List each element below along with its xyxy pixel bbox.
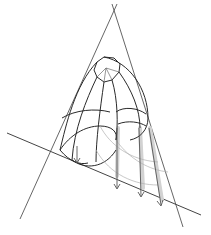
ground-line: [7, 133, 201, 215]
sweep-curves: [60, 57, 148, 166]
left-vanishing-line: [20, 4, 117, 219]
diagram-canvas: [0, 0, 211, 235]
perspective-sketch: [0, 0, 211, 235]
arrow-icon: [74, 146, 80, 163]
